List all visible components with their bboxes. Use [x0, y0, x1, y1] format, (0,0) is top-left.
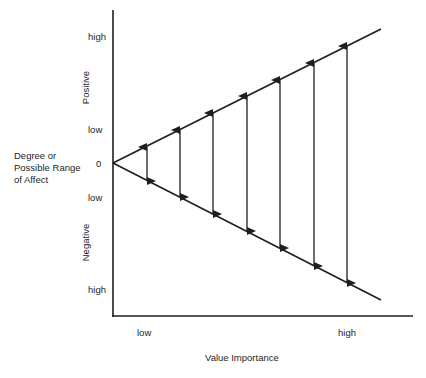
x-axis-title: Value Importance	[205, 352, 279, 364]
negative-axis-label: Negative	[80, 221, 91, 265]
negative-high-label: high	[88, 284, 106, 296]
cone-diagram	[0, 0, 426, 378]
zero-label: 0	[96, 158, 101, 170]
y-axis-title: Degree or Possible Range of Affect	[14, 150, 81, 186]
range-arrows	[147, 46, 347, 283]
negative-low-label: low	[88, 192, 102, 204]
positive-axis-label: Positive	[80, 68, 91, 108]
x-low-label: low	[137, 327, 151, 339]
x-high-label: high	[338, 327, 356, 339]
positive-low-label: low	[88, 124, 102, 136]
y-axis-title-line-1: Degree or	[14, 150, 81, 162]
positive-high-label: high	[88, 31, 106, 43]
y-axis-title-line-2: Possible Range	[14, 162, 81, 174]
y-axis-title-line-3: of Affect	[14, 174, 81, 186]
